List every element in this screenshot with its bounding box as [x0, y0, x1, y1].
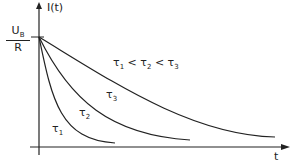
tau-relation: τ1 < τ2 < τ3 [113, 56, 179, 71]
curve-label-tau3: τ3 [106, 88, 117, 103]
plot-canvas [0, 0, 300, 166]
curve-label-tau1: τ1 [52, 122, 63, 137]
diagram: I(t) t UB R τ1 < τ2 < τ3 τ1 τ2 τ3 [0, 0, 300, 166]
curve-label-tau2: τ2 [79, 106, 90, 121]
initial-value-numerator: UB [6, 24, 30, 41]
curve-tau1 [39, 37, 115, 143]
x-axis-arrow-icon [281, 144, 290, 150]
y-axis-label: I(t) [47, 1, 63, 14]
initial-value-denominator: R [6, 41, 30, 54]
x-axis-label: t [274, 150, 278, 163]
initial-value-label: UB R [6, 24, 30, 54]
y-axis-arrow-icon [36, 2, 42, 9]
curve-tau3 [39, 37, 275, 137]
